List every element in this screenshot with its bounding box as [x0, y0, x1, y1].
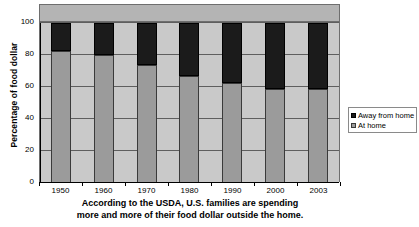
bar-segment-at-home[interactable]: [222, 83, 242, 183]
legend-entry[interactable]: At home: [351, 120, 414, 130]
bar-group[interactable]: [211, 23, 254, 183]
legend-entry[interactable]: Away from home: [351, 110, 414, 120]
x-tick-label: 1970: [127, 186, 167, 196]
chart-legend: Away from homeAt home: [348, 107, 417, 133]
bar-segment-at-home[interactable]: [265, 89, 285, 183]
bar-stack[interactable]: [265, 23, 285, 183]
bar-segment-at-home[interactable]: [137, 65, 157, 183]
legend-swatch-icon: [351, 123, 356, 128]
x-tick-label: 2003: [298, 186, 338, 196]
bar-group[interactable]: [125, 23, 168, 183]
bar-group[interactable]: [83, 23, 126, 183]
x-tick-label: 2000: [256, 186, 296, 196]
bar-segment-away-from-home[interactable]: [137, 23, 157, 65]
legend-label: At home: [358, 121, 386, 130]
plot-header-band: [40, 5, 339, 22]
bar-segment-at-home[interactable]: [94, 55, 114, 183]
legend-label: Away from home: [358, 111, 414, 120]
bar-stack[interactable]: [94, 23, 114, 183]
bar-group[interactable]: [254, 23, 297, 183]
bar-stack[interactable]: [179, 23, 199, 183]
x-tick-label: 1990: [213, 186, 253, 196]
legend-swatch-icon: [351, 113, 356, 118]
bar-group[interactable]: [296, 23, 339, 183]
bar-stack[interactable]: [222, 23, 242, 183]
x-tick-label: 1950: [41, 186, 81, 196]
bar-segment-away-from-home[interactable]: [308, 23, 328, 89]
x-tick-mark: [340, 182, 341, 186]
caption-line-2: more and more of their food dollar outsi…: [30, 209, 350, 221]
x-tick-label: 1980: [170, 186, 210, 196]
y-tick-label: 60: [14, 82, 34, 90]
bars-layer: [40, 23, 339, 183]
bar-segment-away-from-home[interactable]: [222, 23, 242, 83]
bar-stack[interactable]: [51, 23, 71, 183]
bar-stack[interactable]: [137, 23, 157, 183]
x-tick-label: 1960: [84, 186, 124, 196]
y-tick-label: 0: [14, 178, 34, 186]
y-tick-label: 20: [14, 146, 34, 154]
bar-segment-at-home[interactable]: [308, 89, 328, 183]
plot-area-frame: [39, 4, 340, 182]
bar-segment-at-home[interactable]: [179, 76, 199, 183]
y-tick-label: 80: [14, 50, 34, 58]
bar-segment-at-home[interactable]: [51, 51, 71, 183]
bar-segment-away-from-home[interactable]: [265, 23, 285, 89]
caption-line-1: According to the USDA, U.S. families are…: [30, 197, 350, 209]
bar-stack[interactable]: [308, 23, 328, 183]
bar-segment-away-from-home[interactable]: [51, 23, 71, 51]
y-tick-label: 40: [14, 114, 34, 122]
y-axis-tick-labels: 100806040200: [14, 22, 34, 182]
y-axis-line: [40, 23, 41, 183]
y-tick-label: 100: [14, 18, 34, 26]
bar-group[interactable]: [40, 23, 83, 183]
bar-segment-away-from-home[interactable]: [179, 23, 199, 76]
chart-caption: According to the USDA, U.S. families are…: [30, 197, 350, 221]
bar-segment-away-from-home[interactable]: [94, 23, 114, 55]
plot-area: [40, 23, 339, 183]
bar-group[interactable]: [168, 23, 211, 183]
x-axis-tick-labels: 1950196019701980199020002003: [39, 186, 340, 197]
chart-figure: Percentage of food dollar 100806040200 1…: [0, 0, 419, 227]
